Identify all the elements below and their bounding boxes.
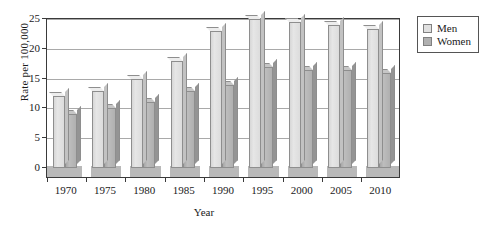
floor-gap xyxy=(200,166,209,177)
bar-face xyxy=(328,25,340,168)
y-tick-mark xyxy=(42,137,46,138)
y-tick-mark xyxy=(42,107,46,108)
bar-men-1975[interactable] xyxy=(92,91,104,168)
bar-side xyxy=(155,94,159,164)
bar-side xyxy=(222,23,226,164)
bar-face xyxy=(289,22,301,168)
x-tick-mark xyxy=(47,178,48,182)
bar-men-1995[interactable] xyxy=(249,19,261,168)
bar-side xyxy=(104,83,108,164)
bar-side xyxy=(261,11,265,164)
y-tick-mark xyxy=(42,18,46,19)
bar-men-2005[interactable] xyxy=(328,25,340,168)
bar-side xyxy=(391,65,395,164)
bar-side xyxy=(313,62,317,164)
y-tick-mark xyxy=(42,48,46,49)
legend-item-men[interactable]: Men xyxy=(423,22,471,34)
x-tick-label: 2010 xyxy=(369,184,391,196)
y-tick-label: 15 xyxy=(18,72,40,84)
bar-face xyxy=(131,79,143,168)
y-tick-mark xyxy=(42,78,46,79)
bar-side xyxy=(352,62,356,164)
legend-label-women: Women xyxy=(437,35,471,47)
x-tick-mark xyxy=(86,178,87,182)
bar-face xyxy=(92,91,104,168)
y-tick-label: 10 xyxy=(18,101,40,113)
bar-side xyxy=(340,17,344,164)
plot-area xyxy=(46,18,400,178)
x-axis-title: Year xyxy=(0,206,408,218)
floor-gap xyxy=(279,166,288,177)
chart-legend: Men Women xyxy=(417,16,479,53)
floor-gap xyxy=(239,166,248,177)
bar-side xyxy=(77,106,81,164)
bar-face xyxy=(171,61,183,168)
bar-side xyxy=(301,14,305,164)
bar-men-1985[interactable] xyxy=(171,61,183,168)
y-tick-label: 20 xyxy=(18,42,40,54)
legend-swatch-women-icon xyxy=(423,37,432,46)
floor-gap xyxy=(82,166,91,177)
floor-gap xyxy=(357,166,366,177)
y-tick-mark xyxy=(42,167,46,168)
bar-face xyxy=(210,31,222,168)
bar-side xyxy=(143,71,147,164)
bar-face xyxy=(367,29,379,168)
bar-chart: Rate per 100,000 0510152025 197019751980… xyxy=(0,0,488,232)
x-tick-label: 2005 xyxy=(330,184,352,196)
x-tick-mark xyxy=(243,178,244,182)
floor-gap xyxy=(318,166,327,177)
y-tick-label: 5 xyxy=(18,131,40,143)
x-tick-label: 1990 xyxy=(212,184,234,196)
x-tick-label: 1980 xyxy=(133,184,155,196)
bar-side xyxy=(183,53,187,164)
x-tick-mark xyxy=(125,178,126,182)
bar-side xyxy=(379,21,383,164)
y-tick-label: 0 xyxy=(18,161,40,173)
bar-face xyxy=(53,96,65,168)
x-tick-mark xyxy=(361,178,362,182)
bar-side xyxy=(234,77,238,164)
bar-men-1980[interactable] xyxy=(131,79,143,168)
gridline xyxy=(47,19,399,20)
x-tick-mark xyxy=(283,178,284,182)
bar-side xyxy=(195,83,199,164)
x-tick-label: 1985 xyxy=(173,184,195,196)
legend-item-women[interactable]: Women xyxy=(423,35,471,47)
bar-face xyxy=(249,19,261,168)
x-tick-mark xyxy=(322,178,323,182)
bar-men-1970[interactable] xyxy=(53,96,65,168)
x-tick-label: 1970 xyxy=(55,184,77,196)
legend-label-men: Men xyxy=(437,22,457,34)
legend-swatch-men-icon xyxy=(423,24,432,33)
bar-side xyxy=(273,59,277,164)
floor-gap xyxy=(161,166,170,177)
bar-side xyxy=(65,88,69,164)
x-tick-label: 1995 xyxy=(251,184,273,196)
bar-side xyxy=(116,100,120,164)
bar-men-1990[interactable] xyxy=(210,31,222,168)
y-tick-label: 25 xyxy=(18,12,40,24)
x-tick-label: 1975 xyxy=(94,184,116,196)
floor-gap xyxy=(121,166,130,177)
x-tick-mark xyxy=(204,178,205,182)
bar-men-2010[interactable] xyxy=(367,29,379,168)
bar-men-2000[interactable] xyxy=(289,22,301,168)
x-tick-mark xyxy=(165,178,166,182)
x-tick-label: 2000 xyxy=(291,184,313,196)
